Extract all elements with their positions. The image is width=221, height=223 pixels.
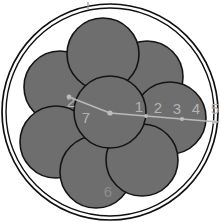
measure-node-center <box>107 110 112 115</box>
circle-label-6: 6 <box>104 183 112 200</box>
figure-canvas: 2 7 1 2 3 4 5 6 <box>0 0 221 223</box>
circle-label-1: 1 <box>135 98 143 115</box>
circle-label-4: 4 <box>192 100 200 117</box>
measure-node-1 <box>144 114 148 118</box>
measure-node-3 <box>212 120 216 124</box>
measure-node-2 <box>180 117 184 121</box>
circle-label-2: 2 <box>154 99 162 116</box>
circle-packing-figure: 2 7 1 2 3 4 5 6 <box>0 0 221 223</box>
circle-label-2-left: 2 <box>67 93 75 110</box>
circle-label-5: 5 <box>211 100 219 117</box>
circle-label-7: 7 <box>82 109 90 126</box>
circle-label-3: 3 <box>173 100 181 117</box>
